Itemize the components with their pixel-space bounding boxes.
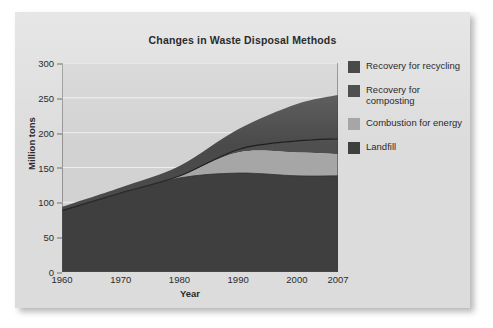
legend-item: Combustion for energy (348, 117, 466, 130)
stacked-area-svg (62, 63, 338, 272)
x-axis-label: Year (35, 288, 345, 299)
y-tick-label: 150 (16, 162, 62, 173)
x-tick-label: 2000 (286, 274, 307, 285)
legend-swatch-icon (348, 118, 360, 130)
x-tick-label: 1970 (110, 274, 131, 285)
legend-item: Landfill (348, 141, 466, 154)
x-tick-label: 1960 (51, 274, 72, 285)
y-tick-label: 100 (16, 197, 62, 208)
chart-panel: Changes in Waste Disposal Methods Millio… (15, 12, 470, 308)
legend-label: Recovery for recycling (366, 60, 460, 71)
chart-legend: Recovery for recyclingRecovery for compo… (348, 60, 466, 165)
chart-figure: Changes in Waste Disposal Methods Millio… (0, 0, 493, 328)
y-tick-label: 300 (16, 58, 62, 69)
x-tick-label: 2007 (327, 274, 348, 285)
plot-area (62, 63, 338, 272)
x-tick-label: 1980 (169, 274, 190, 285)
legend-item: Recovery for recycling (348, 60, 466, 73)
legend-item: Recovery for composting (348, 84, 466, 106)
legend-swatch-icon (348, 61, 360, 73)
chart-title: Changes in Waste Disposal Methods (15, 34, 470, 46)
legend-swatch-icon (348, 142, 360, 154)
x-tick-label: 1990 (228, 274, 249, 285)
y-axis-ticks: 050100150200250300 (14, 63, 62, 272)
legend-swatch-icon (348, 85, 360, 97)
legend-label: Combustion for energy (366, 117, 462, 128)
legend-label: Landfill (366, 141, 396, 152)
y-tick-label: 50 (16, 232, 62, 243)
y-tick-label: 250 (16, 92, 62, 103)
y-tick-label: 200 (16, 127, 62, 138)
legend-label: Recovery for composting (366, 84, 466, 106)
x-axis-ticks: 196019701980199020002007 (62, 274, 338, 288)
